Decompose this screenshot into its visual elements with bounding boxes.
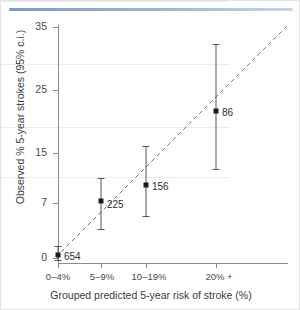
point-label-156: 156 [152,181,169,192]
x-tick-label-10-19: 10–19% [132,271,167,282]
errorbar-cap-bottom-1 [55,260,62,261]
figure-panel: 35 25 15 7 0 0–4% 5–9% 10–19% 20% + 654 … [0,0,300,310]
y-axis-line [58,25,59,265]
x-axis-title: Grouped predicted 5-year risk of stroke … [1,289,300,301]
gridline-15 [1,127,229,128]
errorbar-cap-bottom-2 [98,229,105,230]
point-label-86: 86 [222,107,233,118]
point-label-225: 225 [107,199,124,210]
x-tick-mark-2 [101,263,102,268]
errorbar-cap-top-2 [98,178,105,179]
gridline-7 [1,177,229,178]
errorbar-3 [146,146,147,216]
y-axis-title: Observed % 5-year strokes (95% c.i.) [14,22,26,212]
gridline-35 [1,1,229,2]
x-tick-label-0-4: 0–4% [46,271,70,282]
y-tick-mark-7 [53,203,58,204]
errorbar-cap-top-1 [55,246,62,247]
errorbar-cap-top-4 [213,44,220,45]
errorbar-cap-bottom-3 [143,216,150,217]
point-label-654: 654 [64,251,81,262]
top-accent-rule [9,8,293,11]
errorbar-4 [216,44,217,169]
errorbar-cap-bottom-4 [213,169,220,170]
x-tick-mark-3 [146,263,147,268]
data-point-1 [56,253,61,258]
x-tick-label-20plus: 20% + [205,271,232,282]
gridline-25 [1,64,229,65]
y-tick-mark-15 [53,153,58,154]
y-tick-mark-25 [53,90,58,91]
data-point-3 [144,183,149,188]
errorbar-cap-top-3 [143,146,150,147]
errorbar-2 [101,178,102,229]
x-axis-line [58,263,288,264]
x-tick-mark-1 [58,263,59,268]
data-point-4 [214,109,219,114]
x-tick-label-5-9: 5–9% [90,271,114,282]
data-point-2 [99,199,104,204]
y-tick-mark-35 [53,27,58,28]
x-tick-mark-4 [216,263,217,268]
y-tick-label-0: 0 [17,252,47,263]
